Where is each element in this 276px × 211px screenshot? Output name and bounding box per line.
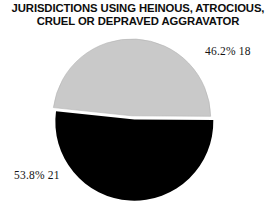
pie-slice-gray <box>53 39 210 116</box>
pie-label-gray-slice: 46.2% 18 <box>205 45 251 57</box>
pie-chart-figure: JURISDICTIONS USING HEINOUS, ATROCIOUS, … <box>0 0 276 211</box>
pie-label-black-slice: 53.8% 21 <box>14 169 60 181</box>
pie-slice-black <box>55 111 213 200</box>
